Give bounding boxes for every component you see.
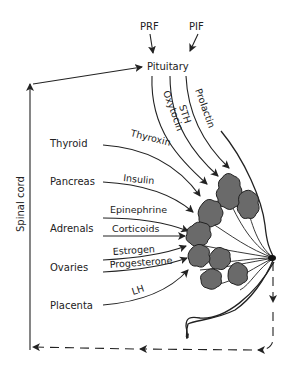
adrenals-label: Adrenals xyxy=(50,223,94,234)
thyroxin-arrow xyxy=(103,145,200,196)
prf-arrow xyxy=(150,34,153,53)
nipple xyxy=(268,255,276,261)
feedback-mid-arrow xyxy=(140,349,252,350)
pif-arrow xyxy=(190,34,198,51)
lobe xyxy=(186,222,211,246)
breast xyxy=(186,131,276,338)
pif-label: PIF xyxy=(189,21,204,32)
mammary-hormone-diagram: PRF PIF Pituitary Spinal cord Oxytocin S… xyxy=(0,0,294,365)
lh-arrow xyxy=(103,270,188,305)
lh-label: LH xyxy=(130,283,145,297)
epinephrine-label: Epinephrine xyxy=(110,204,167,215)
lobe xyxy=(188,244,210,267)
prf-label: PRF xyxy=(140,21,159,32)
feedback-curve xyxy=(258,312,273,350)
thyroxin-label: Thyroxin xyxy=(129,127,172,148)
lobe xyxy=(237,190,259,218)
spinal-to-pituitary-arrow xyxy=(33,67,142,84)
lobe xyxy=(201,269,222,289)
thyroid-label: Thyroid xyxy=(49,138,88,149)
pancreas-label: Pancreas xyxy=(50,176,95,187)
lobe xyxy=(209,247,231,269)
feedback-to-spinal-arrow xyxy=(33,347,134,349)
progesterone-label: Progesterone xyxy=(109,255,173,270)
corticoids-label: Corticoids xyxy=(112,223,159,234)
placenta-label: Placenta xyxy=(50,300,93,311)
ovaries-label: Ovaries xyxy=(50,262,88,273)
spinal-cord-label: Spinal cord xyxy=(15,176,26,232)
pituitary-label: Pituitary xyxy=(147,61,189,72)
lobe xyxy=(228,263,248,286)
